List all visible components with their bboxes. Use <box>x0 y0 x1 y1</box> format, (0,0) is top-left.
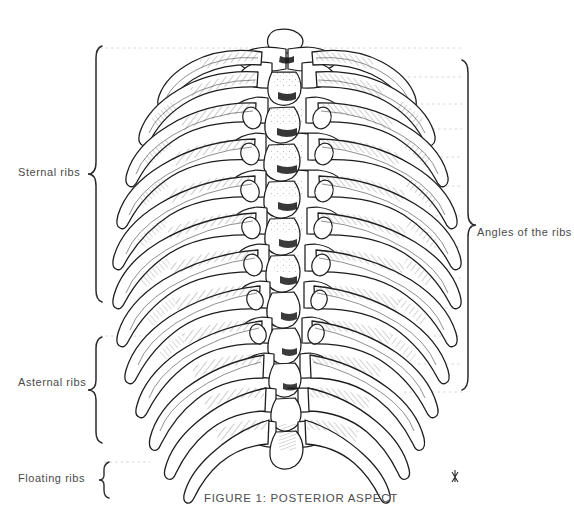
bracket-sternal-ribs <box>86 40 108 350</box>
bracket-asternal-ribs <box>86 332 108 448</box>
label-floating-ribs: Floating ribs <box>18 472 85 484</box>
label-angles-of-the-ribs: Angles of the ribs <box>477 226 572 238</box>
label-sternal-ribs: Sternal ribs <box>18 166 80 178</box>
artist-signature-mark <box>452 470 458 482</box>
bracket-angles-of-the-ribs <box>456 54 478 416</box>
figure-container: Sternal ribs Asternal ribs Floating ribs… <box>0 0 574 521</box>
bracket-floating-ribs <box>96 458 114 502</box>
label-asternal-ribs: Asternal ribs <box>18 376 86 388</box>
figure-caption: FIGURE 1: POSTERIOR ASPECT <box>204 492 398 504</box>
